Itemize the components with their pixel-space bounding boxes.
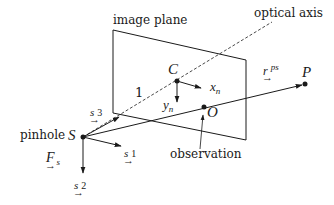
s2-label: s→2: [74, 180, 86, 191]
yn-label: yn: [163, 98, 173, 111]
image-plane: [113, 30, 246, 140]
pinhole-label: pinhole: [20, 129, 65, 141]
s3-label: s→3: [90, 107, 102, 118]
observation-label: observation: [170, 148, 241, 160]
world-point: [303, 82, 308, 87]
pinhole-point: [81, 135, 86, 140]
observation-pointer-arrow: [200, 115, 203, 149]
xn-axis-arrow: [177, 81, 201, 88]
center-point: [175, 79, 180, 84]
observation-point: [202, 105, 207, 110]
observation-point-label: O: [207, 105, 218, 120]
s1-label: s→1: [124, 148, 136, 159]
world-point-label: P: [302, 65, 311, 80]
image-plane-label: image plane: [113, 14, 187, 26]
pinhole-point-label: S: [68, 128, 76, 143]
focal-length-label: 1: [135, 86, 143, 99]
optical-axis-label: optical axis: [254, 7, 323, 19]
ray-r-ps-label: r→ps: [263, 65, 279, 77]
s1-axis-arrow: [83, 137, 121, 146]
frame-fs-label: F→s: [46, 151, 60, 165]
xn-label: xn: [210, 80, 220, 93]
center-point-label: C: [168, 62, 178, 77]
